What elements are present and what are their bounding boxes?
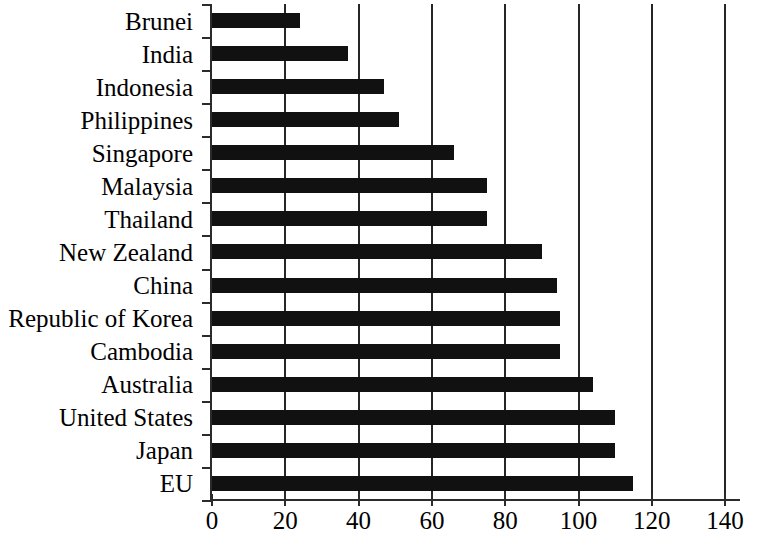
- y-tick: [202, 269, 211, 271]
- category-label: New Zealand: [59, 239, 193, 266]
- bar: [212, 79, 384, 94]
- category-label: Brunei: [125, 7, 193, 34]
- bar: [212, 112, 399, 127]
- y-tick: [202, 37, 211, 39]
- bar: [212, 211, 487, 226]
- y-tick: [202, 235, 211, 237]
- bar: [212, 443, 615, 458]
- category-label: Australia: [101, 371, 193, 398]
- x-tick-label: 60: [419, 506, 444, 536]
- x-tick-label: 140: [706, 506, 744, 536]
- bar-chart: BruneiIndiaIndonesiaPhilippinesSingapore…: [0, 0, 776, 537]
- x-tick-0: [211, 494, 213, 506]
- category-label: Japan: [136, 437, 193, 464]
- x-tick-140: [724, 494, 726, 506]
- y-tick: [202, 202, 211, 204]
- category-label: United States: [59, 404, 193, 431]
- category-label: India: [142, 40, 193, 67]
- category-label: China: [133, 272, 193, 299]
- category-label: Singapore: [92, 139, 193, 166]
- x-tick-label: 80: [493, 506, 518, 536]
- bar: [212, 244, 542, 259]
- y-tick: [202, 368, 211, 370]
- bar: [212, 278, 557, 293]
- category-label: Malaysia: [101, 172, 193, 199]
- y-tick: [202, 136, 211, 138]
- x-tick-label: 0: [206, 506, 219, 536]
- x-tick-100: [578, 494, 580, 506]
- y-tick: [202, 467, 211, 469]
- bar: [212, 178, 487, 193]
- bar: [212, 46, 348, 61]
- bar: [212, 13, 300, 28]
- bar: [212, 145, 454, 160]
- category-label: Republic of Korea: [8, 305, 193, 332]
- bar: [212, 377, 593, 392]
- x-tick-20: [284, 494, 286, 506]
- category-label: Cambodia: [90, 338, 193, 365]
- bar: [212, 311, 560, 326]
- bar-row: [0, 269, 776, 302]
- bar: [212, 344, 560, 359]
- y-tick: [202, 169, 211, 171]
- y-tick: [202, 4, 211, 6]
- y-tick: [202, 103, 211, 105]
- bar-row: [0, 4, 776, 37]
- x-tick-label: 120: [633, 506, 671, 536]
- x-tick-40: [358, 494, 360, 506]
- y-tick: [202, 434, 211, 436]
- category-label: Thailand: [104, 205, 193, 232]
- bar: [212, 410, 615, 425]
- bar-row: [0, 37, 776, 70]
- y-tick: [202, 335, 211, 337]
- y-tick: [202, 401, 211, 403]
- category-label: EU: [160, 470, 193, 497]
- x-tick-label: 100: [560, 506, 598, 536]
- x-tick-80: [504, 494, 506, 506]
- category-label: Philippines: [80, 106, 193, 133]
- x-tick-120: [651, 494, 653, 506]
- x-tick-label: 20: [273, 506, 298, 536]
- y-tick: [202, 70, 211, 72]
- category-label: Indonesia: [96, 73, 193, 100]
- bar: [212, 476, 633, 491]
- x-tick-60: [431, 494, 433, 506]
- y-tick: [202, 500, 211, 502]
- y-tick: [202, 302, 211, 304]
- bar-row: [0, 434, 776, 467]
- x-tick-label: 40: [346, 506, 371, 536]
- bar-row: [0, 467, 776, 500]
